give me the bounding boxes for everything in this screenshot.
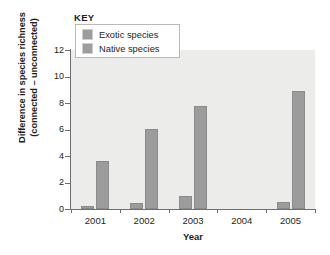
y-tick-label: 2: [42, 178, 64, 187]
y-axis-title-line-2: (connected – unconnected): [28, 18, 38, 136]
bar-native-2002: [145, 129, 158, 209]
legend-item-label: Exotic species: [99, 30, 158, 40]
x-tick-label: 2004: [219, 215, 265, 226]
chart-figure: 024681012 20012002200320042005 Differenc…: [0, 0, 330, 255]
y-tick-label: 12: [42, 46, 64, 55]
x-tick: [266, 209, 267, 213]
bar-exotic-2003: [179, 196, 192, 209]
y-tick: [65, 77, 70, 78]
y-tick: [65, 209, 70, 210]
x-tick-label: 2002: [121, 215, 167, 226]
x-tick: [71, 209, 72, 213]
x-tick-label: 2005: [268, 215, 314, 226]
y-tick-label: 4: [42, 152, 64, 161]
x-tick-label: 2001: [72, 215, 118, 226]
y-axis-line: [70, 49, 71, 210]
x-axis-line: [70, 209, 316, 210]
y-tick-label: 6: [42, 125, 64, 134]
bar-exotic-2005: [277, 202, 290, 209]
bar-native-2005: [292, 91, 305, 209]
y-tick-label: 8: [42, 99, 64, 108]
y-tick-label: 10: [42, 72, 64, 81]
legend-swatch-icon: [82, 29, 93, 40]
y-tick: [65, 103, 70, 104]
legend-item-label: Native species: [99, 44, 159, 54]
y-tick: [65, 130, 70, 131]
x-axis-title: Year: [70, 231, 316, 242]
y-tick-label: 0: [42, 205, 64, 214]
x-tick: [315, 209, 316, 213]
legend-item-native: Native species: [82, 43, 159, 54]
legend-title: KEY: [74, 12, 94, 23]
x-tick: [120, 209, 121, 213]
y-tick: [65, 50, 70, 51]
x-tick: [169, 209, 170, 213]
y-axis-title-line-1: Difference in species richness: [17, 12, 27, 143]
bar-native-2001: [96, 161, 109, 209]
legend-item-exotic: Exotic species: [82, 29, 158, 40]
y-axis-title: Difference in species richness (connecte…: [17, 0, 40, 158]
y-tick: [65, 156, 70, 157]
x-tick-label: 2003: [170, 215, 216, 226]
legend-box: Exotic speciesNative species: [75, 24, 180, 58]
bar-native-2003: [194, 106, 207, 209]
legend-swatch-icon: [82, 43, 93, 54]
y-axis-tick-labels: 024681012: [38, 0, 64, 255]
y-tick: [65, 183, 70, 184]
x-tick: [217, 209, 218, 213]
